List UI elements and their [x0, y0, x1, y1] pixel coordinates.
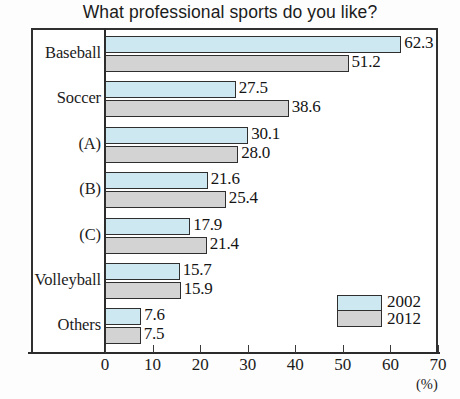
category-label: Soccer — [30, 88, 101, 108]
bar-2002-others — [105, 308, 141, 325]
x-tick-mark — [295, 345, 296, 353]
legend-swatch-2002 — [337, 295, 382, 311]
value-axis-line — [28, 352, 440, 354]
bar-2012-others — [105, 327, 141, 344]
x-tick-mark — [153, 345, 154, 353]
category-label: (B) — [30, 179, 101, 199]
bar-value-label: 30.1 — [251, 124, 280, 144]
x-tick-label: 70 — [418, 355, 458, 375]
bar-value-label: 62.3 — [404, 33, 433, 53]
x-tick-mark — [438, 345, 439, 353]
category-label: Others — [30, 315, 101, 335]
x-tick-label: 50 — [323, 355, 363, 375]
category-label: Baseball — [30, 43, 101, 63]
bar-value-label: 21.4 — [210, 234, 239, 254]
bar-2012-baseball — [105, 55, 349, 72]
x-tick-label: 60 — [370, 355, 410, 375]
bar-value-label: 38.6 — [292, 97, 321, 117]
category-label: Volleyball — [30, 270, 101, 290]
chart-title: What professional sports do you like? — [0, 2, 460, 23]
bar-value-label: 7.5 — [144, 324, 165, 344]
x-tick-mark — [248, 345, 249, 353]
category-label: (C) — [30, 225, 101, 245]
bar-2002-a — [105, 127, 248, 144]
bar-2012-a — [105, 146, 238, 163]
bar-2012-soccer — [105, 100, 289, 117]
x-tick-label: 0 — [85, 355, 125, 375]
x-tick-mark — [343, 345, 344, 353]
bar-2002-b — [105, 172, 208, 189]
legend-label-2012: 2012 — [387, 309, 421, 329]
bar-2002-c — [105, 218, 190, 235]
bar-2012-b — [105, 191, 226, 208]
bar-value-label: 17.9 — [193, 215, 222, 235]
x-tick-label: 20 — [180, 355, 220, 375]
bar-value-label: 28.0 — [241, 143, 270, 163]
bar-2002-volleyball — [105, 263, 180, 280]
x-tick-mark — [390, 345, 391, 353]
bar-2012-volleyball — [105, 282, 181, 299]
bar-value-label: 27.5 — [239, 78, 268, 98]
legend-swatch-2012 — [337, 311, 382, 327]
x-tick-mark — [200, 345, 201, 353]
bar-2002-baseball — [105, 36, 401, 53]
bar-2012-c — [105, 237, 207, 254]
bar-value-label: 15.9 — [184, 279, 213, 299]
bar-value-label: 15.7 — [183, 260, 212, 280]
x-tick-mark — [105, 345, 106, 353]
bar-value-label: 21.6 — [211, 169, 240, 189]
legend: 2002 2012 — [337, 295, 432, 331]
chart-screenshot: What professional sports do you like? 01… — [0, 0, 460, 399]
x-tick-label: 30 — [228, 355, 268, 375]
bar-value-label: 51.2 — [352, 52, 381, 72]
bar-value-label: 7.6 — [144, 305, 165, 325]
category-label: (A) — [30, 134, 101, 154]
x-tick-label: 40 — [275, 355, 315, 375]
bar-2002-soccer — [105, 81, 236, 98]
bar-value-label: 25.4 — [229, 188, 258, 208]
axis-unit-label: (%) — [416, 376, 438, 393]
x-tick-label: 10 — [133, 355, 173, 375]
